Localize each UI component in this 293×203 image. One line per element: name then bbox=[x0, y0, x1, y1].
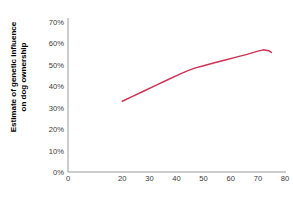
chart-figure: Estimate of genetic influence on dog own… bbox=[0, 0, 293, 203]
plot-area bbox=[0, 0, 293, 203]
data-line-genetic-influence bbox=[122, 50, 271, 101]
